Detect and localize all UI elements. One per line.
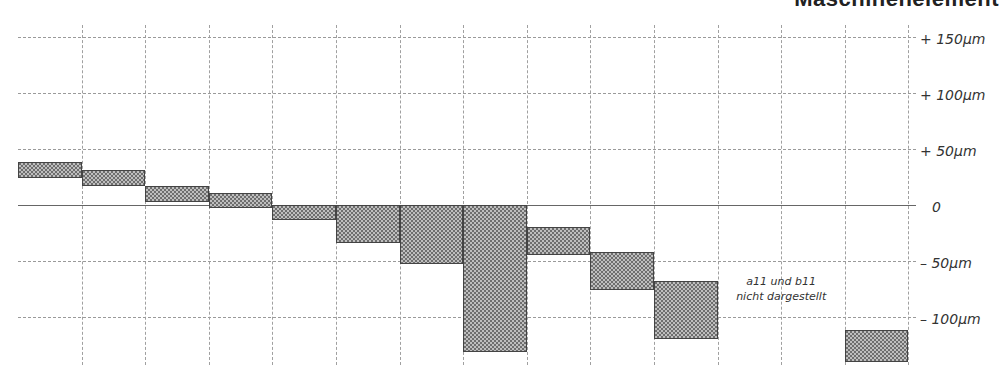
grid-line-vertical: [908, 25, 909, 365]
tolerance-band-bar: [590, 252, 654, 290]
grid-line-vertical: [82, 25, 83, 365]
tolerance-band-bar: [654, 281, 718, 339]
grid-line-horizontal: [18, 149, 916, 150]
tolerance-band-bar: [18, 162, 82, 178]
grid-line-horizontal: [18, 37, 916, 38]
grid-line-vertical: [781, 25, 782, 365]
tolerance-band-bar: [845, 330, 909, 361]
y-axis-tick-label: + 150µm: [920, 31, 985, 47]
tolerance-band-bar: [527, 227, 591, 255]
y-axis-tick-label: + 50µm: [920, 143, 977, 159]
grid-line-vertical: [272, 25, 273, 365]
y-axis-tick-label: + 100µm: [920, 87, 985, 103]
chart-annotation: a11 und b11 nicht dargestellt: [720, 274, 843, 304]
grid-line-vertical: [845, 25, 846, 365]
grid-line-vertical: [527, 25, 528, 365]
y-axis-tick-label: – 50µm: [920, 255, 972, 271]
grid-line-vertical: [718, 25, 719, 365]
tolerance-band-bar: [336, 205, 400, 243]
tolerance-band-bar: [400, 205, 464, 264]
annotation-line-1: a11 und b11: [720, 274, 843, 289]
tolerance-band-bar: [209, 193, 273, 209]
tolerance-band-bar: [463, 205, 527, 352]
annotation-line-2: nicht dargestellt: [720, 289, 843, 304]
grid-line-vertical: [400, 25, 401, 365]
tolerance-band-bar: [82, 170, 146, 186]
tolerance-band-bar: [145, 186, 209, 202]
grid-line-vertical: [336, 25, 337, 365]
grid-line-horizontal: [18, 93, 916, 94]
y-axis-tick-label: 0: [932, 199, 941, 215]
y-axis-tick-label: – 100µm: [920, 311, 981, 327]
tolerance-band-bar: [272, 205, 336, 220]
tolerance-chart: + 150µm+ 100µm+ 50µm0– 50µm– 100µm: [0, 0, 999, 375]
grid-line-vertical: [590, 25, 591, 365]
